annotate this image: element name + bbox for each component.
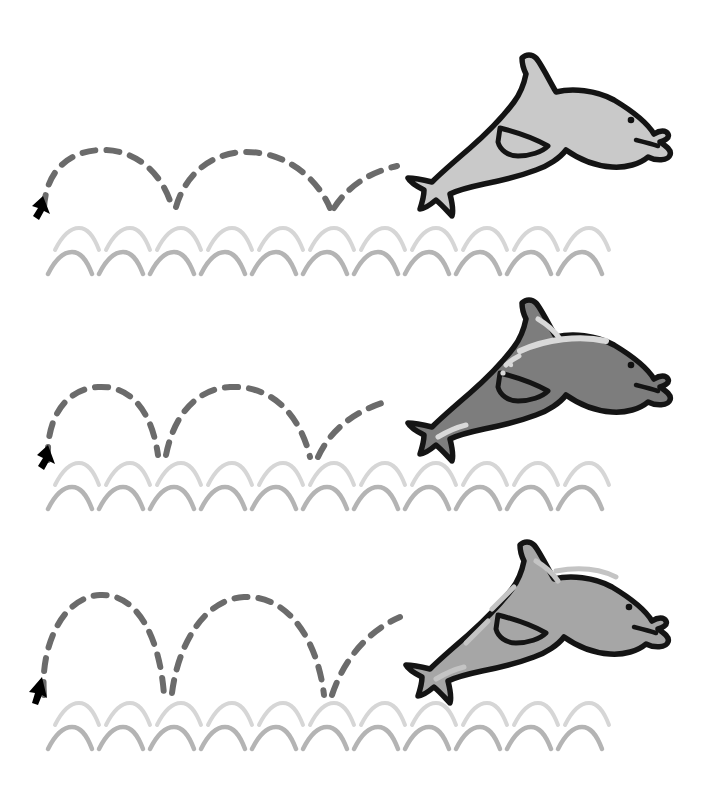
panel-1 <box>0 0 714 285</box>
wave-row-bottom <box>48 727 602 749</box>
dolphin-eye <box>628 362 635 369</box>
wave-row-top <box>55 463 609 485</box>
bounce-path-low <box>44 150 397 208</box>
bounce-path-high <box>44 595 400 695</box>
dolphin-eye <box>626 604 633 611</box>
wave-row-top <box>55 703 609 725</box>
wave-row-bottom <box>48 487 602 509</box>
wave-row-bottom <box>48 252 602 274</box>
dolphin-dark <box>408 300 670 461</box>
panel-3 <box>0 535 714 795</box>
wave-row-top <box>55 228 609 250</box>
dolphin-eye <box>628 117 635 124</box>
start-arrow-icon <box>37 445 55 470</box>
dolphin-medium <box>406 542 668 703</box>
bounce-path-medium <box>48 387 382 460</box>
panel-2 <box>0 285 714 535</box>
dolphin-light <box>408 55 670 216</box>
illustration-canvas: Dolphin Jumping Over Waves <box>0 0 714 795</box>
